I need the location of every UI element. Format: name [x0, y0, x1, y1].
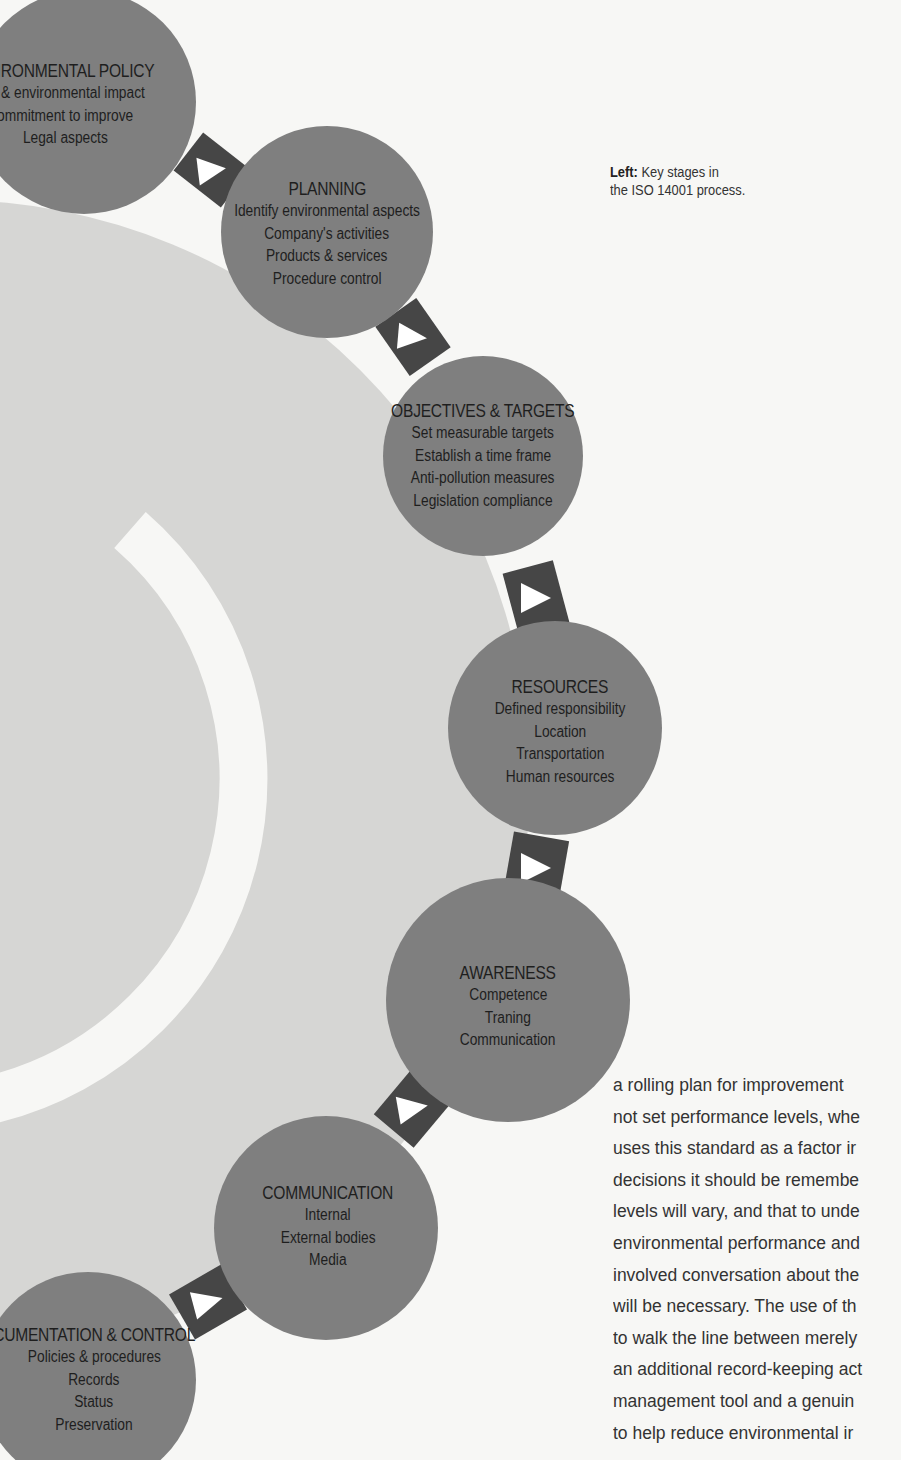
- stage-documentation-control: CUMENTATION & CONTROL Policies & procedu…: [0, 1324, 204, 1436]
- stage-objectives-targets: OBJECTIVES & TARGETS Set measurable targ…: [373, 400, 593, 512]
- stage-item: Status: [74, 1391, 113, 1414]
- stage-item: Company's activities: [265, 223, 390, 246]
- caption-label: Left:: [610, 164, 638, 180]
- caption-text-line2: the ISO 14001 process.: [610, 181, 745, 199]
- stage-item: Communication: [460, 1029, 556, 1052]
- stage-item: Competence: [469, 984, 547, 1007]
- stage-item: re & environmental impact: [0, 82, 145, 105]
- stage-environmental-policy: NVIRONMENTAL POLICY re & environmental i…: [0, 60, 170, 150]
- stage-item: Human resources: [506, 766, 615, 789]
- body-text-line: not set performance levels, whe: [613, 1102, 901, 1134]
- stage-item: ommitment to improve: [0, 105, 133, 128]
- stage-item: Traning: [485, 1007, 531, 1030]
- stage-title: OBJECTIVES & TARGETS: [391, 400, 574, 422]
- stage-item: Media: [309, 1249, 346, 1272]
- body-text-line: an additional record-keeping act: [613, 1354, 901, 1386]
- body-text-column: a rolling plan for improvement not set p…: [613, 1070, 901, 1449]
- stage-item: Defined responsibility: [495, 698, 626, 721]
- stage-item: Identify environmental aspects: [234, 200, 420, 223]
- stage-resources: RESOURCES Defined responsibility Locatio…: [450, 676, 670, 788]
- stage-item: Establish a time frame: [415, 445, 551, 468]
- body-text-line: management tool and a genuin: [613, 1386, 901, 1418]
- stage-item: Products & services: [266, 245, 388, 268]
- body-text-line: levels will vary, and that to unde: [613, 1196, 901, 1228]
- stage-awareness: AWARENESS Competence Traning Communicati…: [398, 962, 618, 1052]
- stage-item: Legal aspects: [23, 127, 108, 150]
- caption-text-line1: Key stages in: [641, 164, 718, 180]
- stage-item: Policies & procedures: [27, 1346, 160, 1369]
- body-text-line: to walk the line between merely: [613, 1323, 901, 1355]
- body-text-line: a rolling plan for improvement: [613, 1070, 901, 1102]
- stage-item: Internal: [305, 1204, 351, 1227]
- stage-title: NVIRONMENTAL POLICY: [0, 60, 154, 82]
- stage-title: RESOURCES: [512, 676, 608, 698]
- stage-item: Preservation: [55, 1414, 132, 1437]
- stage-item: Procedure control: [273, 268, 382, 291]
- stage-item: Location: [534, 721, 586, 744]
- stage-item: Anti-pollution measures: [411, 467, 555, 490]
- stage-title: CUMENTATION & CONTROL: [0, 1324, 195, 1346]
- body-text-line: environmental performance and: [613, 1228, 901, 1260]
- stage-item: Transportation: [516, 743, 604, 766]
- stage-title: AWARENESS: [460, 962, 556, 984]
- stage-item: Set measurable targets: [412, 422, 554, 445]
- stage-planning: PLANNING Identify environmental aspects …: [212, 178, 442, 290]
- stage-communication: COMMUNICATION Internal External bodies M…: [218, 1182, 438, 1272]
- stage-item: External bodies: [281, 1227, 376, 1250]
- body-text-line: uses this standard as a factor ir: [613, 1133, 901, 1165]
- stage-item: Legislation compliance: [413, 490, 552, 513]
- stage-item: Records: [68, 1369, 119, 1392]
- body-text-line: to help reduce environmental ir: [613, 1418, 901, 1450]
- body-text-line: involved conversation about the: [613, 1260, 901, 1292]
- figure-caption: Left: Key stages in the ISO 14001 proces…: [610, 163, 745, 199]
- body-text-line: decisions it should be remembe: [613, 1165, 901, 1197]
- stage-title: COMMUNICATION: [263, 1182, 394, 1204]
- body-text-line: will be necessary. The use of th: [613, 1291, 901, 1323]
- stage-title: PLANNING: [288, 178, 366, 200]
